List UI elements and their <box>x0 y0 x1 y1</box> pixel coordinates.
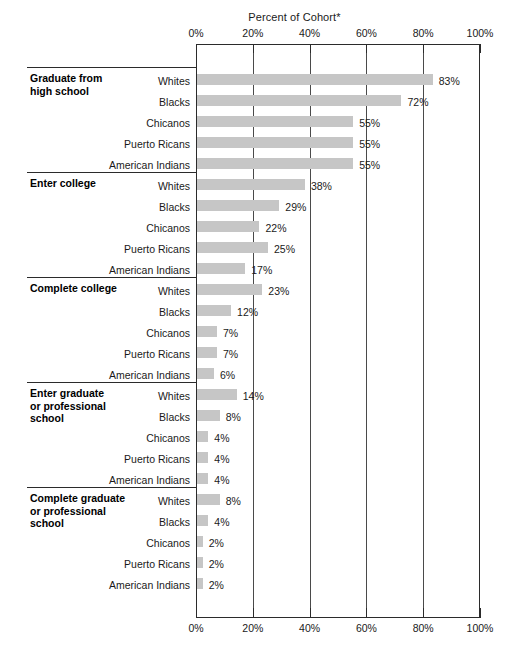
bar-value-label: 55% <box>359 138 380 150</box>
chart-row: Blacks29% <box>0 198 514 219</box>
bar-value-label: 38% <box>311 180 332 192</box>
bar <box>197 389 237 400</box>
bar-value-label: 8% <box>226 411 241 423</box>
bar-value-label: 72% <box>407 96 428 108</box>
row-label: Blacks <box>0 516 190 528</box>
row-label: Chicanos <box>0 222 190 234</box>
row-label: Blacks <box>0 96 190 108</box>
row-label: Whites <box>0 180 190 192</box>
axis-tick-top <box>253 44 254 53</box>
x-axis-labels-bottom: 0%20%40%60%80%100% <box>0 622 514 636</box>
row-label: Chicanos <box>0 537 190 549</box>
chart-row: American Indians2% <box>0 576 514 597</box>
bar <box>197 578 203 589</box>
x-tick-label-top: 80% <box>413 27 434 39</box>
chart-row: Puerto Ricans55% <box>0 135 514 156</box>
bar-value-label: 29% <box>285 201 306 213</box>
bar <box>197 305 231 316</box>
axis-tick-bottom <box>196 608 197 617</box>
bar <box>197 158 353 169</box>
row-label: Puerto Ricans <box>0 558 190 570</box>
bar <box>197 137 353 148</box>
chart-row: Puerto Ricans2% <box>0 555 514 576</box>
bar-value-label: 83% <box>439 75 460 87</box>
bar <box>197 200 279 211</box>
group-separator-line <box>27 277 197 278</box>
chart-row: Whites83% <box>0 72 514 93</box>
x-tick-label-top: 40% <box>299 27 320 39</box>
bar <box>197 431 208 442</box>
row-label: Blacks <box>0 201 190 213</box>
bar <box>197 557 203 568</box>
row-label: American Indians <box>0 369 190 381</box>
row-label: Blacks <box>0 306 190 318</box>
row-label: American Indians <box>0 474 190 486</box>
row-label: Whites <box>0 390 190 402</box>
chart-row: Chicanos4% <box>0 429 514 450</box>
row-label: American Indians <box>0 264 190 276</box>
bar-value-label: 8% <box>226 495 241 507</box>
chart-row: Blacks4% <box>0 513 514 534</box>
x-tick-label-bottom: 80% <box>413 622 434 634</box>
row-label: Chicanos <box>0 117 190 129</box>
x-tick-label-bottom: 60% <box>356 622 377 634</box>
axis-tick-bottom <box>480 608 481 617</box>
bar <box>197 263 245 274</box>
chart-group: Graduate fromhigh schoolWhites83%Blacks7… <box>0 67 514 172</box>
bar <box>197 95 401 106</box>
group-separator-line <box>27 67 197 68</box>
x-tick-label-bottom: 0% <box>188 622 203 634</box>
bar-value-label: 2% <box>209 558 224 570</box>
chart-group: Complete collegeWhites23%Blacks12%Chican… <box>0 277 514 382</box>
bar-value-label: 14% <box>243 390 264 402</box>
bar-value-label: 25% <box>274 243 295 255</box>
row-label: Puerto Ricans <box>0 138 190 150</box>
row-label: Whites <box>0 495 190 507</box>
chart-row: Chicanos55% <box>0 114 514 135</box>
axis-tick-bottom <box>423 608 424 617</box>
bar-value-label: 55% <box>359 117 380 129</box>
row-label: Puerto Ricans <box>0 243 190 255</box>
bar <box>197 347 217 358</box>
bar-value-label: 7% <box>223 327 238 339</box>
axis-tick-top <box>423 44 424 53</box>
bar <box>197 473 208 484</box>
row-label: Puerto Ricans <box>0 348 190 360</box>
group-separator-line <box>27 382 197 383</box>
x-tick-label-top: 60% <box>356 27 377 39</box>
bar <box>197 242 268 253</box>
bar-value-label: 4% <box>214 453 229 465</box>
axis-tick-bottom <box>253 608 254 617</box>
row-label: Blacks <box>0 411 190 423</box>
x-tick-label-bottom: 100% <box>467 622 494 634</box>
x-tick-label-top: 0% <box>188 27 203 39</box>
bar-value-label: 17% <box>251 264 272 276</box>
chart-group: Complete graduateor professionalschoolWh… <box>0 487 514 592</box>
row-label: American Indians <box>0 579 190 591</box>
chart-row: Chicanos2% <box>0 534 514 555</box>
bar <box>197 284 262 295</box>
chart-row: Chicanos7% <box>0 324 514 345</box>
bar <box>197 452 208 463</box>
bar-value-label: 2% <box>209 537 224 549</box>
chart-row: Blacks72% <box>0 93 514 114</box>
chart-row: Whites23% <box>0 282 514 303</box>
row-label: Whites <box>0 75 190 87</box>
bar-value-label: 4% <box>214 474 229 486</box>
bar <box>197 368 214 379</box>
group-separator-line <box>27 487 197 488</box>
bar <box>197 494 220 505</box>
chart-group: Enter graduateor professionalschoolWhite… <box>0 382 514 487</box>
bar-value-label: 4% <box>214 432 229 444</box>
x-tick-label-bottom: 40% <box>299 622 320 634</box>
bar <box>197 326 217 337</box>
chart-row: Whites38% <box>0 177 514 198</box>
axis-tick-bottom <box>366 608 367 617</box>
bar <box>197 116 353 127</box>
bar-value-label: 6% <box>220 369 235 381</box>
row-label: Whites <box>0 285 190 297</box>
axis-tick-top <box>366 44 367 53</box>
chart-row: Whites8% <box>0 492 514 513</box>
axis-tick-top <box>310 44 311 53</box>
row-label: Chicanos <box>0 327 190 339</box>
